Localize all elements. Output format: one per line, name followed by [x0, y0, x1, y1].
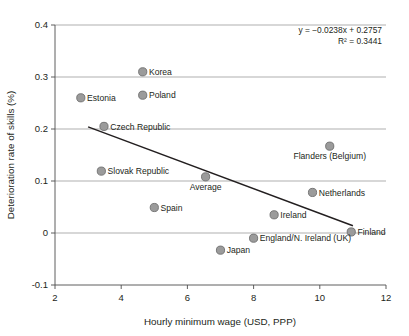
trendline — [88, 127, 353, 226]
x-axis-ticks: 24681012 — [52, 285, 391, 303]
regression-equation: y = −0.0238x + 0.2757 — [298, 25, 382, 35]
r-squared-value: R² = 0.3441 — [338, 36, 382, 46]
data-point[interactable]: Ireland — [270, 210, 307, 220]
x-axis-title: Hourly minimum wage (USD, PPP) — [144, 316, 296, 327]
x-tick-label: 8 — [251, 292, 256, 303]
y-axis-title: Deterioration rate of skills (%) — [5, 91, 16, 220]
data-point-label: Flanders (Belgium) — [293, 151, 366, 161]
x-tick-label: 12 — [381, 292, 392, 303]
data-point-label: Poland — [149, 90, 176, 100]
data-point[interactable]: Czech Republic — [100, 122, 171, 132]
data-point-label: England/N. Ireland (UK) — [260, 233, 351, 243]
data-point[interactable]: Slovak Republic — [97, 166, 170, 176]
y-tick-label: 0.1 — [35, 175, 48, 186]
data-point-marker[interactable] — [77, 94, 85, 102]
data-point-marker[interactable] — [150, 203, 158, 211]
data-point[interactable]: Japan — [216, 245, 250, 255]
data-point-marker[interactable] — [270, 211, 278, 219]
x-tick-label: 10 — [315, 292, 326, 303]
data-point-marker[interactable] — [139, 91, 147, 99]
y-axis-ticks: 0.40.30.20.10-0.1 — [32, 19, 55, 290]
data-point-marker[interactable] — [97, 167, 105, 175]
data-point-marker[interactable] — [250, 234, 258, 242]
data-point[interactable]: Poland — [139, 90, 176, 100]
data-point[interactable]: Netherlands — [308, 188, 365, 198]
data-point[interactable]: Estonia — [77, 93, 116, 103]
data-point[interactable]: Flanders (Belgium) — [293, 142, 366, 161]
y-tick-label: 0.4 — [35, 19, 48, 30]
data-points-group: KoreaEstoniaPolandCzech RepublicFlanders… — [77, 67, 386, 255]
x-tick-label: 4 — [119, 292, 124, 303]
data-point[interactable]: Korea — [139, 67, 172, 77]
y-tick-label: 0.2 — [35, 123, 48, 134]
x-tick-label: 2 — [52, 292, 57, 303]
data-point-label: Average — [190, 182, 222, 192]
x-tick-label: 6 — [185, 292, 190, 303]
chart-canvas: 0.40.30.20.10-0.1 24681012 KoreaEstoniaP… — [0, 0, 409, 336]
data-point-label: Slovak Republic — [108, 166, 170, 176]
data-point-marker[interactable] — [202, 173, 210, 181]
data-point-label: Korea — [149, 67, 172, 77]
data-point-marker[interactable] — [100, 122, 108, 130]
data-point-marker[interactable] — [139, 68, 147, 76]
data-point-label: Spain — [161, 203, 183, 213]
data-point[interactable]: Finland — [347, 227, 386, 237]
data-point-label: Netherlands — [319, 188, 365, 198]
data-point[interactable]: England/N. Ireland (UK) — [250, 233, 352, 243]
data-point-marker[interactable] — [216, 246, 224, 254]
scatter-chart: 0.40.30.20.10-0.1 24681012 KoreaEstoniaP… — [0, 0, 409, 336]
data-point-label: Czech Republic — [110, 122, 171, 132]
data-point-label: Estonia — [87, 93, 116, 103]
data-point-marker[interactable] — [308, 188, 316, 196]
data-point-marker[interactable] — [326, 142, 334, 150]
data-point[interactable]: Spain — [150, 203, 183, 213]
y-tick-label: 0.3 — [35, 71, 48, 82]
data-point-label: Finland — [357, 227, 385, 237]
y-tick-label: 0 — [43, 227, 48, 238]
data-point-label: Ireland — [280, 210, 306, 220]
y-tick-label: -0.1 — [32, 279, 48, 290]
data-point-label: Japan — [227, 245, 251, 255]
